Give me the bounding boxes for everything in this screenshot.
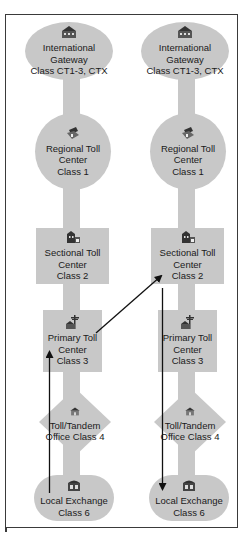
node-label: Local Exchange Class 6 <box>155 495 223 518</box>
node-label: Sectional Toll Center Class 2 <box>160 247 216 282</box>
hierarchy-column-left: International Gateway Class CT1-3, CTX R… <box>0 0 120 545</box>
node-label: International Gateway Class CT1-3, CTX <box>25 42 113 77</box>
node-label: Regional Toll Center Class 1 <box>161 143 215 178</box>
node-regional-toll-center: Regional Toll Center Class 1 <box>35 113 111 190</box>
hierarchy-column-right: International Gateway Class CT1-3, CTX R… <box>115 0 235 545</box>
antenna-building-icon <box>64 315 82 329</box>
node-toll-tandem-office: Toll/Tandem Office Class 4 <box>39 388 111 456</box>
node-local-exchange: Local Exchange Class 6 <box>149 475 229 521</box>
node-label: Primary Toll Center Class 3 <box>163 332 212 367</box>
node-label: Local Exchange Class 6 <box>40 495 108 518</box>
node-primary-toll-center: Primary Toll Center Class 3 <box>158 310 217 372</box>
sectional-office-icon <box>179 230 197 244</box>
node-label: Toll/Tandem Office Class 4 <box>154 420 226 443</box>
node-label: Primary Toll Center Class 3 <box>48 332 97 367</box>
house-icon <box>68 406 82 417</box>
exchange-building-icon <box>180 478 198 492</box>
exchange-building-icon <box>65 478 83 492</box>
sectional-office-icon <box>64 230 82 244</box>
node-label: Regional Toll Center Class 1 <box>46 143 100 178</box>
regional-office-icon <box>179 126 197 140</box>
node-label: Toll/Tandem Office Class 4 <box>39 420 111 443</box>
node-international-gateway: International Gateway Class CT1-3, CTX <box>25 22 113 80</box>
building-icon <box>60 25 78 39</box>
node-primary-toll-center: Primary Toll Center Class 3 <box>43 310 102 372</box>
node-regional-toll-center: Regional Toll Center Class 1 <box>150 113 226 190</box>
node-international-gateway: International Gateway Class CT1-3, CTX <box>141 22 229 80</box>
node-label: International Gateway Class CT1-3, CTX <box>141 42 229 77</box>
regional-office-icon <box>64 126 82 140</box>
antenna-building-icon <box>179 315 197 329</box>
house-icon <box>183 406 197 417</box>
node-toll-tandem-office: Toll/Tandem Office Class 4 <box>154 388 226 456</box>
node-local-exchange: Local Exchange Class 6 <box>34 475 114 521</box>
node-label: Sectional Toll Center Class 2 <box>45 247 101 282</box>
node-sectional-toll-center: Sectional Toll Center Class 2 <box>151 228 224 284</box>
node-sectional-toll-center: Sectional Toll Center Class 2 <box>36 228 109 284</box>
building-icon <box>176 25 194 39</box>
